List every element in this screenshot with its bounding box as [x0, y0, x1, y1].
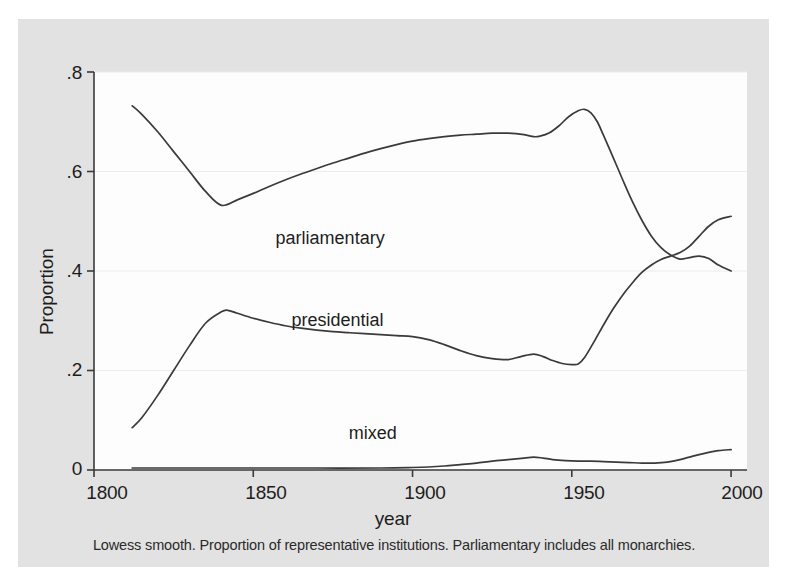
series-lines	[132, 106, 731, 468]
xtick-label-2000: 2000	[697, 482, 787, 504]
ytick-label-0.2: .2	[46, 359, 82, 381]
xtick-label-1850: 1850	[221, 482, 311, 504]
chart-figure: 0 .2 .4 .6 .8 Proportion 1800 1850 1900 …	[0, 0, 787, 579]
xtick-label-1800: 1800	[62, 482, 152, 504]
axis-ticks	[87, 72, 731, 477]
series-label-presidential: presidential	[292, 310, 384, 331]
ytick-label-0.6: .6	[46, 161, 82, 183]
y-axis-label: Proportion	[36, 248, 58, 335]
ytick-label-0: 0	[46, 458, 82, 480]
series-label-mixed: mixed	[349, 423, 397, 444]
series-label-parliamentary: parliamentary	[276, 228, 385, 249]
xtick-label-1900: 1900	[380, 482, 470, 504]
xtick-label-1950: 1950	[539, 482, 629, 504]
ytick-label-0.8: .8	[46, 62, 82, 84]
x-axis-label: year	[333, 508, 453, 530]
gridlines	[94, 72, 747, 470]
chart-caption: Lowess smooth. Proportion of representat…	[34, 537, 754, 553]
